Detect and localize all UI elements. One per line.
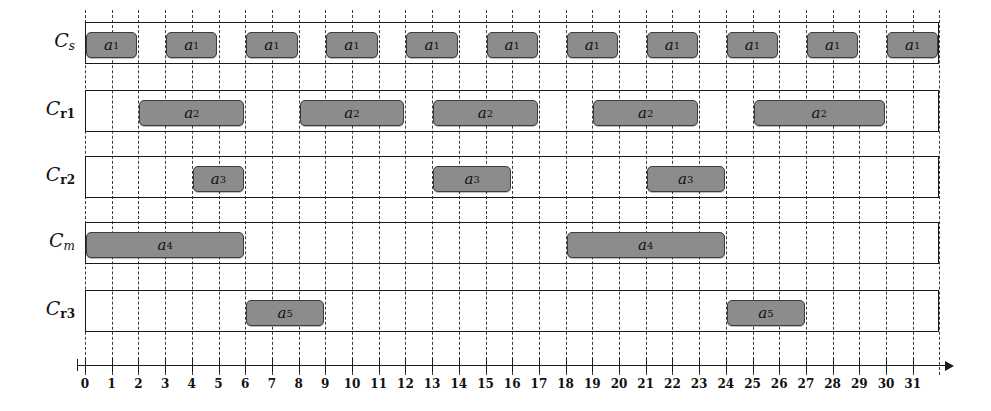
x-axis-tick xyxy=(486,358,487,372)
task-label: a xyxy=(184,104,193,122)
task-label-subscript: 1 xyxy=(433,40,439,51)
x-axis-tick-label: 11 xyxy=(370,377,387,391)
row-label-main: C xyxy=(54,29,69,51)
task-label-subscript: 1 xyxy=(113,40,119,51)
x-axis-tick xyxy=(138,358,139,372)
task-label: a xyxy=(758,304,767,322)
x-axis-tick-label: 27 xyxy=(798,377,815,391)
task-label: a xyxy=(157,236,166,254)
task-label-subscript: 1 xyxy=(273,40,279,51)
row-label-subscript: s xyxy=(69,39,75,53)
task-label: a xyxy=(505,36,514,54)
task-bar[interactable]: a4 xyxy=(567,232,725,258)
task-bar[interactable]: a3 xyxy=(193,166,244,192)
task-bar[interactable]: a1 xyxy=(246,32,297,58)
task-bar[interactable]: a2 xyxy=(300,100,405,126)
task-label: a xyxy=(264,36,273,54)
task-label-subscript: 3 xyxy=(687,174,693,185)
x-axis-tick-label: 0 xyxy=(81,377,89,391)
x-axis-tick-label: 25 xyxy=(744,377,761,391)
task-bar[interactable]: a1 xyxy=(487,32,538,58)
x-axis-tick-label: 23 xyxy=(691,377,708,391)
x-axis-tick-label: 20 xyxy=(611,377,628,391)
row-label-cm: Cm xyxy=(0,229,75,253)
row-label-subscript: m xyxy=(64,239,75,253)
x-axis-tick xyxy=(192,358,193,372)
task-label: a xyxy=(278,304,287,322)
x-axis-tick xyxy=(806,358,807,372)
x-axis-tick-label: 7 xyxy=(268,377,276,391)
x-axis-tick xyxy=(512,358,513,372)
x-axis-tick-label: 4 xyxy=(188,377,196,391)
x-axis-tick-label: 19 xyxy=(584,377,601,391)
row-label-cr1: Cr1 xyxy=(0,97,75,121)
task-bar[interactable]: a1 xyxy=(326,32,377,58)
x-axis-tick xyxy=(646,358,647,372)
row-label-cr2: Cr2 xyxy=(0,163,75,187)
x-axis-tick xyxy=(325,358,326,372)
x-axis-tick xyxy=(753,358,754,372)
task-label-subscript: 5 xyxy=(767,308,773,319)
task-bar[interactable]: a3 xyxy=(647,166,725,192)
task-bar[interactable]: a4 xyxy=(86,232,244,258)
task-bar[interactable]: a1 xyxy=(166,32,217,58)
gantt-chart: Csa1a1a1a1a1a1a1a1a1a1a1Cr1a2a2a2a2a2Cr2… xyxy=(0,0,991,411)
task-bar[interactable]: a1 xyxy=(887,32,938,58)
x-axis-tick xyxy=(299,358,300,372)
row-label-main: C xyxy=(46,297,61,319)
task-bar[interactable]: a2 xyxy=(433,100,538,126)
task-label-subscript: 4 xyxy=(647,240,653,251)
task-bar[interactable]: a5 xyxy=(727,300,805,326)
x-axis-tick xyxy=(886,358,887,372)
row-label-subscript: r3 xyxy=(60,307,75,321)
task-label-subscript: 2 xyxy=(487,108,493,119)
task-bar[interactable]: a1 xyxy=(807,32,858,58)
x-axis-tick-label: 18 xyxy=(557,377,574,391)
x-axis-tick xyxy=(913,358,914,372)
task-label-subscript: 5 xyxy=(287,308,293,319)
row-label-cs: Cs xyxy=(0,29,75,53)
task-bar[interactable]: a3 xyxy=(433,166,511,192)
task-label-subscript: 2 xyxy=(647,108,653,119)
task-label: a xyxy=(464,170,473,188)
task-bar[interactable]: a1 xyxy=(727,32,778,58)
x-axis-tick-label: 22 xyxy=(664,377,681,391)
task-label: a xyxy=(478,104,487,122)
task-label-subscript: 1 xyxy=(513,40,519,51)
task-label-subscript: 3 xyxy=(220,174,226,185)
task-bar[interactable]: a1 xyxy=(567,32,618,58)
x-axis-tick-label: 13 xyxy=(424,377,441,391)
task-label-subscript: 3 xyxy=(473,174,479,185)
task-label-subscript: 2 xyxy=(353,108,359,119)
x-axis-tick-label: 24 xyxy=(717,377,734,391)
x-axis-tick-label: 31 xyxy=(904,377,921,391)
row-label-cr3: Cr3 xyxy=(0,297,75,321)
grid-line xyxy=(939,10,940,375)
task-bar[interactable]: a1 xyxy=(406,32,457,58)
task-label-subscript: 1 xyxy=(914,40,920,51)
x-axis-tick-label: 21 xyxy=(637,377,654,391)
lane-cr3 xyxy=(85,290,939,332)
task-bar[interactable]: a2 xyxy=(139,100,244,126)
x-axis-tick-label: 3 xyxy=(161,377,169,391)
task-bar[interactable]: a1 xyxy=(647,32,698,58)
x-axis-line xyxy=(77,365,945,366)
task-bar[interactable]: a2 xyxy=(593,100,698,126)
x-axis-tick xyxy=(566,358,567,372)
x-axis-tick xyxy=(85,358,86,372)
x-axis-tick xyxy=(219,358,220,372)
x-axis-arrow-icon xyxy=(945,361,954,371)
task-bar[interactable]: a1 xyxy=(86,32,137,58)
x-axis-tick xyxy=(352,358,353,372)
task-label-subscript: 1 xyxy=(674,40,680,51)
x-axis-tick-label: 17 xyxy=(531,377,548,391)
x-axis-tick xyxy=(459,358,460,372)
task-bar[interactable]: a2 xyxy=(754,100,886,126)
x-axis-tick-label: 26 xyxy=(771,377,788,391)
x-axis-tick-label: 12 xyxy=(397,377,414,391)
x-axis-tick xyxy=(245,358,246,372)
task-label: a xyxy=(638,236,647,254)
task-bar[interactable]: a5 xyxy=(246,300,324,326)
x-axis-tick-label: 15 xyxy=(477,377,494,391)
task-label: a xyxy=(825,36,834,54)
